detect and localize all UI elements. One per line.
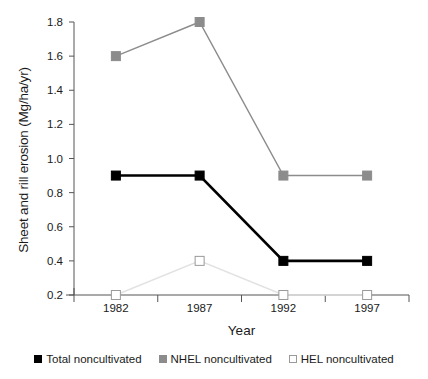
- x-tick-label: 1982: [81, 302, 151, 314]
- y-tick-label: 0.8: [29, 187, 63, 199]
- chart-legend: Total noncultivatedNHEL noncultivatedHEL…: [0, 353, 428, 365]
- y-tick-label: 0.4: [29, 255, 63, 267]
- x-tick-label: 1987: [165, 302, 235, 314]
- legend-label: Total noncultivated: [46, 353, 141, 365]
- y-axis-title: Sheet and rill erosion (Mg/ha/yr): [14, 10, 34, 310]
- legend-swatch-icon: [159, 355, 167, 363]
- data-point-marker: [363, 171, 372, 180]
- series-line: [116, 176, 367, 261]
- series-1: [111, 171, 371, 265]
- y-tick-label: 0.6: [29, 221, 63, 233]
- series-3: [111, 256, 371, 299]
- y-tick-label: 1.4: [29, 84, 63, 96]
- legend-item: NHEL noncultivated: [159, 353, 272, 365]
- data-point-marker: [111, 171, 120, 180]
- chart-figure: 0.20.40.60.81.01.21.41.61.8 198219871992…: [0, 0, 428, 379]
- x-tick-label: 1997: [332, 302, 402, 314]
- legend-label: NHEL noncultivated: [171, 353, 272, 365]
- y-tick-label: 1.0: [29, 153, 63, 165]
- data-point-marker: [279, 291, 288, 300]
- data-point-marker: [363, 291, 372, 300]
- legend-item: Total noncultivated: [34, 353, 141, 365]
- y-tick-label: 0.2: [29, 289, 63, 301]
- data-point-marker: [111, 291, 120, 300]
- data-point-marker: [363, 256, 372, 265]
- y-tick-label: 1.8: [29, 16, 63, 28]
- y-tick-label: 1.2: [29, 118, 63, 130]
- x-tick-label: 1992: [248, 302, 318, 314]
- data-point-marker: [195, 256, 204, 265]
- data-point-marker: [279, 256, 288, 265]
- data-point-marker: [195, 171, 204, 180]
- series-2: [111, 18, 371, 181]
- data-point-marker: [279, 171, 288, 180]
- data-point-marker: [111, 52, 120, 61]
- data-series-layer: [111, 18, 371, 300]
- series-line: [116, 261, 367, 295]
- legend-label: HEL noncultivated: [301, 353, 394, 365]
- legend-item: HEL noncultivated: [289, 353, 394, 365]
- legend-swatch-icon: [289, 355, 297, 363]
- series-line: [116, 22, 367, 176]
- legend-swatch-icon: [34, 355, 42, 363]
- x-axis-title: Year: [74, 323, 409, 338]
- y-tick-label: 1.6: [29, 50, 63, 62]
- data-point-marker: [195, 18, 204, 27]
